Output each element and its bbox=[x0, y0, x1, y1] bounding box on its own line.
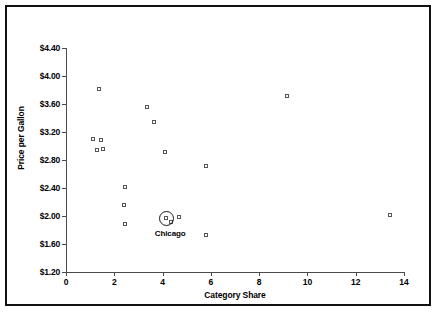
y-axis-tick-label: $1.20 bbox=[22, 268, 60, 277]
data-point[interactable] bbox=[177, 215, 181, 219]
y-axis-line bbox=[66, 48, 67, 272]
x-axis-tick-label: 14 bbox=[392, 277, 416, 287]
y-axis-tick bbox=[62, 216, 66, 217]
x-axis-tick-label: 2 bbox=[102, 277, 126, 287]
annotation-label-chicago: Chicago bbox=[135, 229, 205, 238]
x-axis-title: Category Share bbox=[66, 290, 404, 300]
x-axis-tick bbox=[163, 272, 164, 276]
data-point[interactable] bbox=[123, 185, 127, 189]
data-point[interactable] bbox=[101, 147, 105, 151]
chart-frame: $1.20$1.60$2.00$2.40$2.80$3.20$3.60$4.00… bbox=[5, 5, 431, 306]
y-axis-tick bbox=[62, 48, 66, 49]
y-axis-tick-label: $3.20 bbox=[22, 128, 60, 137]
x-axis-tick bbox=[307, 272, 308, 276]
y-axis-tick-label: $2.00 bbox=[22, 212, 60, 221]
y-axis-tick bbox=[62, 76, 66, 77]
x-axis-tick bbox=[211, 272, 212, 276]
x-axis-tick bbox=[66, 272, 67, 276]
data-point[interactable] bbox=[97, 87, 101, 91]
data-point[interactable] bbox=[152, 120, 156, 124]
y-axis-tick bbox=[62, 132, 66, 133]
y-axis-tick-label-wrap: $4.40 bbox=[17, 44, 60, 53]
data-point[interactable] bbox=[95, 148, 99, 152]
data-point[interactable] bbox=[285, 94, 289, 98]
y-axis-tick bbox=[62, 160, 66, 161]
y-axis-tick-label: $2.40 bbox=[22, 184, 60, 193]
y-axis-title: Price per Gallon bbox=[16, 78, 26, 198]
y-axis-tick-label-wrap: $1.20 bbox=[17, 268, 60, 277]
x-axis-tick bbox=[259, 272, 260, 276]
x-axis-tick-label: 4 bbox=[151, 277, 175, 287]
data-point[interactable] bbox=[99, 138, 103, 142]
data-point[interactable] bbox=[204, 164, 208, 168]
x-axis-tick-label: 0 bbox=[54, 277, 78, 287]
data-point[interactable] bbox=[123, 222, 127, 226]
y-axis-tick bbox=[62, 244, 66, 245]
data-point[interactable] bbox=[91, 137, 95, 141]
data-point[interactable] bbox=[145, 105, 149, 109]
x-axis-tick bbox=[356, 272, 357, 276]
x-axis-tick bbox=[404, 272, 405, 276]
x-axis-tick bbox=[114, 272, 115, 276]
y-axis-tick-label-wrap: $2.00 bbox=[17, 212, 60, 221]
y-axis-tick bbox=[62, 104, 66, 105]
x-axis-tick-label: 10 bbox=[295, 277, 319, 287]
y-axis-tick bbox=[62, 188, 66, 189]
y-axis-tick-label: $1.60 bbox=[22, 240, 60, 249]
y-axis-tick-label: $3.60 bbox=[22, 100, 60, 109]
data-point[interactable] bbox=[388, 213, 392, 217]
data-point[interactable] bbox=[163, 150, 167, 154]
data-point[interactable] bbox=[122, 203, 126, 207]
y-axis-tick-label: $4.00 bbox=[22, 72, 60, 81]
x-axis-tick-label: 8 bbox=[247, 277, 271, 287]
y-axis-tick-label: $4.40 bbox=[22, 44, 60, 53]
x-axis-tick-label: 12 bbox=[344, 277, 368, 287]
highlight-circle bbox=[159, 211, 174, 226]
y-axis-tick-label: $2.80 bbox=[22, 156, 60, 165]
scatter-plot: $1.20$1.60$2.00$2.40$2.80$3.20$3.60$4.00… bbox=[7, 7, 433, 308]
x-axis-line bbox=[66, 272, 404, 273]
y-axis-tick-label-wrap: $1.60 bbox=[17, 240, 60, 249]
x-axis-tick-label: 6 bbox=[199, 277, 223, 287]
